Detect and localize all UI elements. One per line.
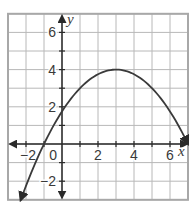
y-tick-label: −2 bbox=[40, 173, 56, 189]
x-tick-label: −2 bbox=[20, 147, 36, 163]
x-tick-label: 0 bbox=[49, 147, 57, 163]
x-axis-label: x bbox=[177, 143, 185, 159]
x-tick-label: 4 bbox=[130, 147, 138, 163]
parabola-graph: −20246642−2 x y bbox=[0, 0, 191, 204]
y-tick-label: 2 bbox=[48, 99, 56, 115]
y-tick-label: 6 bbox=[48, 24, 56, 40]
x-tick-label: 2 bbox=[94, 147, 102, 163]
y-axis-label: y bbox=[65, 11, 74, 27]
grid-lines bbox=[8, 14, 188, 200]
y-tick-label: 4 bbox=[48, 62, 56, 78]
x-tick-label: 6 bbox=[166, 147, 174, 163]
